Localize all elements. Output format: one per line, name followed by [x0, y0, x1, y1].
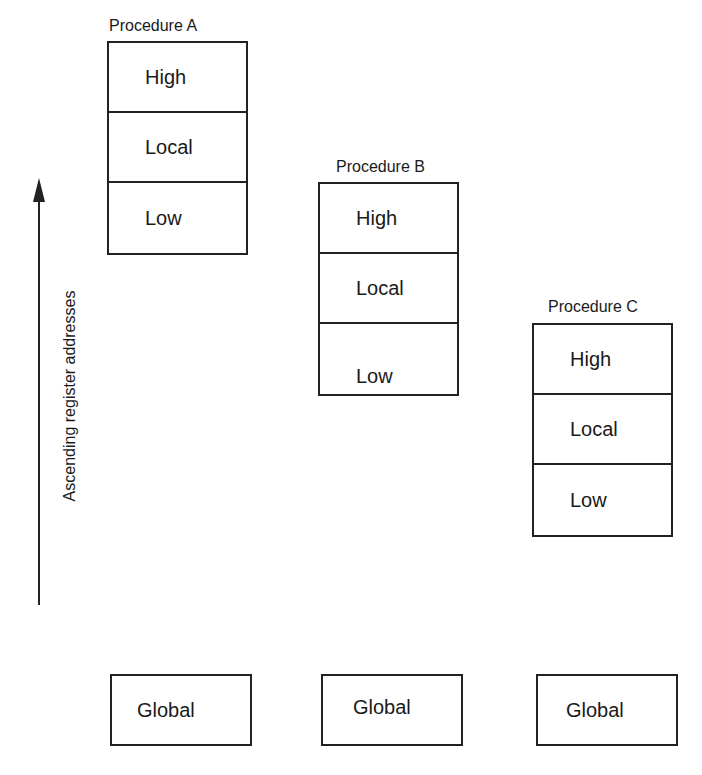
procedure-c-title: Procedure C [548, 298, 638, 316]
register-window-local: Local [320, 254, 457, 324]
register-window-low: Low [109, 183, 246, 253]
axis-arrow-line [38, 190, 40, 605]
register-window-local: Local [534, 395, 671, 465]
register-window-high: High [534, 325, 671, 395]
procedure-c-stack: High Local Low [532, 323, 673, 537]
global-register-b: Global [321, 674, 463, 746]
register-window-low: Low [534, 465, 671, 535]
global-register-a: Global [110, 674, 252, 746]
arrow-up-icon [33, 178, 45, 202]
procedure-b-title: Procedure B [336, 158, 425, 176]
register-window-low: Low [320, 324, 457, 394]
register-window-high: High [109, 43, 246, 113]
register-window-high: High [320, 184, 457, 254]
register-window-local: Local [109, 113, 246, 183]
global-register-c: Global [536, 674, 678, 746]
procedure-a-title: Procedure A [109, 17, 197, 35]
procedure-b-stack: High Local Low [318, 182, 459, 396]
axis-label: Ascending register addresses [61, 291, 79, 502]
procedure-a-stack: High Local Low [107, 41, 248, 255]
